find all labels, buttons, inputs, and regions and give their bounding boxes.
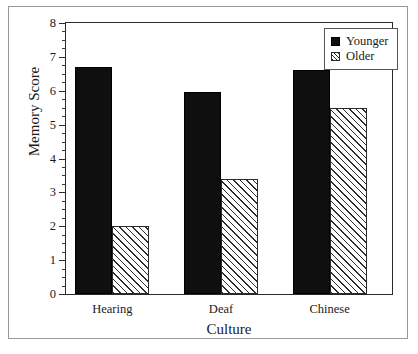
y-axis-minor-tick — [62, 108, 66, 109]
y-axis-minor-tick — [62, 116, 66, 117]
y-axis-major-tick — [59, 23, 66, 24]
y-axis-minor-tick — [62, 277, 66, 278]
hatched-square-icon — [331, 52, 340, 61]
y-axis-tick-label: 7 — [50, 51, 56, 64]
y-axis-minor-tick — [62, 201, 66, 202]
y-axis-major-tick — [59, 125, 66, 126]
bar-chinese-older — [330, 108, 367, 294]
y-axis-minor-tick — [62, 184, 66, 185]
legend-item-older: Older — [331, 49, 389, 64]
y-axis-tick-label: 2 — [50, 220, 56, 233]
y-axis-major-tick — [59, 260, 66, 261]
y-axis-minor-tick — [62, 65, 66, 66]
bar-chart-figure: 012345678 HearingDeafChinese Memory Scor… — [0, 0, 418, 354]
y-axis-minor-tick — [62, 99, 66, 100]
y-axis-tick-label: 0 — [50, 288, 56, 301]
filled-square-icon — [331, 37, 340, 46]
x-axis-title: Culture — [65, 322, 393, 337]
y-axis-minor-tick — [62, 252, 66, 253]
y-axis-minor-tick — [62, 40, 66, 41]
y-axis-minor-tick — [62, 82, 66, 83]
x-axis-label-hearing: Hearing — [92, 303, 132, 316]
y-axis-major-tick — [59, 226, 66, 227]
y-axis-tick-label: 5 — [50, 118, 56, 131]
y-axis-major-tick — [59, 159, 66, 160]
y-axis-minor-tick — [62, 218, 66, 219]
bar-deaf-older — [221, 179, 258, 294]
y-axis-tick-label: 4 — [50, 152, 56, 165]
bar-deaf-younger — [184, 92, 221, 294]
y-axis-tick-label: 3 — [50, 186, 56, 199]
y-axis-tick-label: 1 — [50, 254, 56, 267]
y-axis-minor-tick — [62, 286, 66, 287]
y-axis-title: Memory Score — [27, 32, 42, 192]
y-axis-minor-tick — [62, 142, 66, 143]
y-axis-minor-tick — [62, 269, 66, 270]
y-axis-minor-tick — [62, 243, 66, 244]
legend-label-younger: Younger — [346, 35, 389, 48]
y-axis-major-tick — [59, 192, 66, 193]
y-axis-minor-tick — [62, 31, 66, 32]
y-axis-major-tick — [59, 57, 66, 58]
y-axis-major-tick — [59, 294, 66, 295]
y-axis-minor-tick — [62, 167, 66, 168]
legend-label-older: Older — [346, 50, 374, 63]
legend: Younger Older — [324, 28, 398, 70]
y-axis-minor-tick — [62, 133, 66, 134]
x-axis-label-chinese: Chinese — [310, 303, 350, 316]
y-axis-minor-tick — [62, 74, 66, 75]
y-axis-minor-tick — [62, 175, 66, 176]
bar-chinese-younger — [293, 70, 330, 294]
y-axis-tick-label: 6 — [50, 85, 56, 98]
y-axis-minor-tick — [62, 48, 66, 49]
y-axis-major-tick — [59, 91, 66, 92]
y-axis-minor-tick — [62, 235, 66, 236]
y-axis-tick-label: 8 — [50, 17, 56, 30]
bar-hearing-older — [112, 226, 149, 294]
legend-item-younger: Younger — [331, 34, 389, 49]
bar-hearing-younger — [75, 67, 112, 294]
y-axis-minor-tick — [62, 150, 66, 151]
y-axis-minor-tick — [62, 209, 66, 210]
x-axis-label-deaf: Deaf — [209, 303, 233, 316]
